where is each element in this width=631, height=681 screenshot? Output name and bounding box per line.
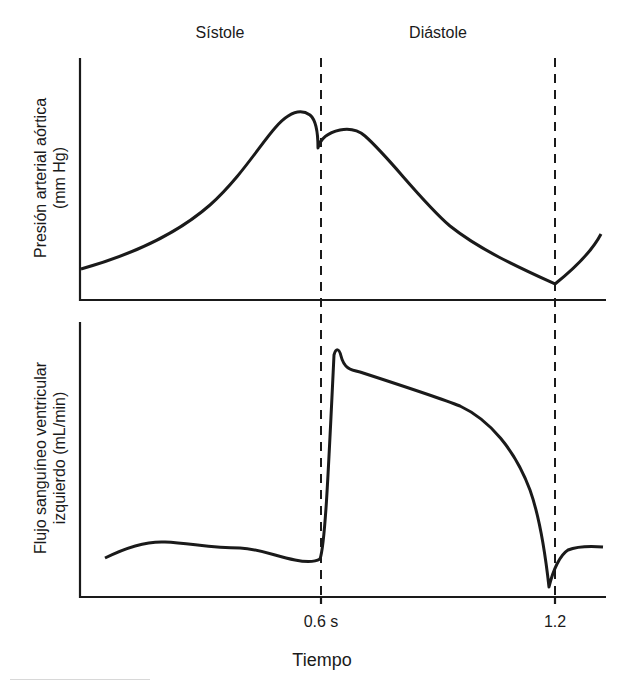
cardiac-cycle-figure: Sístole Diástole Presión arterial aórtic…	[0, 0, 631, 681]
reference-lines	[321, 58, 555, 597]
top-y-axis-label: Presión arterial aórtica (mm Hg)	[31, 98, 69, 258]
x-axis-label: Tiempo	[292, 650, 351, 671]
bottom-y-axis-label-line2: izquierdo (mL/min)	[50, 362, 69, 554]
phase-label-diastole: Diástole	[409, 24, 467, 42]
bottom-y-axis-label: Flujo sanguíneo ventricular izquierdo (m…	[31, 362, 69, 554]
aortic-pressure-curve	[81, 112, 601, 284]
x-tick-label-0-6: 0.6 s	[304, 613, 339, 631]
top-panel-axes	[80, 58, 606, 300]
top-axis-lines	[80, 58, 606, 300]
x-tick-label-1-2: 1.2	[544, 613, 566, 631]
lv-flow-curve	[105, 350, 603, 587]
phase-label-systole: Sístole	[196, 24, 245, 42]
footer-divider	[10, 679, 150, 680]
top-y-axis-label-line1: Presión arterial aórtica	[31, 98, 50, 258]
top-y-axis-label-line2: (mm Hg)	[50, 98, 69, 258]
chart-canvas	[0, 0, 631, 681]
bottom-y-axis-label-line1: Flujo sanguíneo ventricular	[31, 362, 50, 554]
